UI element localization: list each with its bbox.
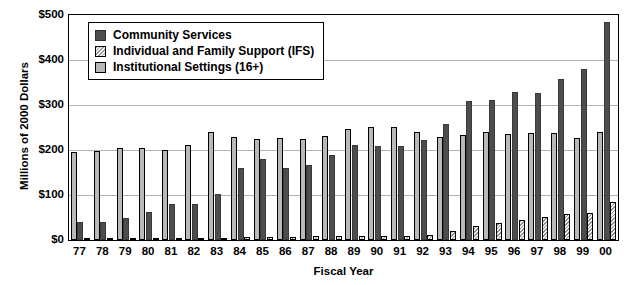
bar-ifs xyxy=(404,236,410,241)
legend-entry-ifs: Individual and Family Support (IFS) xyxy=(95,43,314,59)
bar-ifs xyxy=(290,237,296,240)
legend: Community Services Individual and Family… xyxy=(88,22,324,80)
bar-community-services xyxy=(535,93,541,240)
bar-institutional-settings xyxy=(300,139,306,240)
hatched-light-swatch-icon xyxy=(95,46,106,57)
bar-ifs xyxy=(221,238,227,240)
solid-dark-swatch-icon xyxy=(95,30,106,41)
x-tick-label: 80 xyxy=(142,245,155,257)
x-tick-label: 99 xyxy=(576,245,589,257)
legend-entry-institutional-settings: Institutional Settings (16+) xyxy=(95,59,314,75)
bar-community-services xyxy=(192,204,198,240)
x-tick-label: 88 xyxy=(325,245,338,257)
x-tick-label: 84 xyxy=(233,245,246,257)
bar-ifs xyxy=(107,238,113,240)
x-tick-label: 82 xyxy=(187,245,200,257)
bar-ifs xyxy=(450,231,456,240)
bar-ifs xyxy=(473,226,479,240)
bar-ifs xyxy=(153,238,159,240)
bar-community-services xyxy=(215,194,221,240)
bar-group xyxy=(483,15,502,240)
bar-institutional-settings xyxy=(414,132,420,240)
bar-institutional-settings xyxy=(117,148,123,240)
x-tick-label: 92 xyxy=(416,245,429,257)
bar-ifs xyxy=(176,238,182,240)
x-tick-label: 78 xyxy=(96,245,109,257)
bar-ifs xyxy=(587,213,593,240)
bar-community-services xyxy=(375,146,381,240)
bar-ifs xyxy=(84,238,90,240)
x-tick-label: 98 xyxy=(553,245,566,257)
bar-group xyxy=(505,15,524,240)
x-tick-label: 89 xyxy=(348,245,361,257)
bar-community-services xyxy=(604,22,610,240)
bar-institutional-settings xyxy=(528,133,534,240)
bar-ifs xyxy=(610,202,616,240)
bar-community-services xyxy=(512,92,518,241)
bar-group xyxy=(574,15,593,240)
bar-community-services xyxy=(238,168,244,240)
x-tick-label: 96 xyxy=(508,245,521,257)
bar-group xyxy=(322,15,341,240)
bar-group xyxy=(597,15,616,240)
bar-community-services xyxy=(421,140,427,240)
bar-group xyxy=(391,15,410,240)
bar-community-services xyxy=(352,145,358,240)
bar-institutional-settings xyxy=(322,136,328,240)
x-tick-label: 83 xyxy=(210,245,223,257)
bar-community-services xyxy=(466,101,472,240)
bar-group xyxy=(345,15,364,240)
bar-community-services xyxy=(77,222,83,240)
bar-institutional-settings xyxy=(368,127,374,240)
bar-community-services xyxy=(260,159,266,240)
x-tick-label: 97 xyxy=(531,245,544,257)
bar-community-services xyxy=(581,69,587,240)
bar-institutional-settings xyxy=(277,138,283,240)
bar-group xyxy=(551,15,570,240)
x-tick-label: 91 xyxy=(393,245,406,257)
x-tick-label: 90 xyxy=(370,245,383,257)
bar-group xyxy=(528,15,547,240)
x-tick-label: 81 xyxy=(165,245,178,257)
y-tick-label: $200 xyxy=(14,143,64,155)
bar-community-services xyxy=(283,168,289,240)
bar-ifs xyxy=(267,237,273,240)
x-tick-label: 79 xyxy=(119,245,132,257)
bar-group xyxy=(437,15,456,240)
bar-ifs xyxy=(359,236,365,240)
bar-institutional-settings xyxy=(391,127,397,240)
x-tick-label: 87 xyxy=(302,245,315,257)
bar-institutional-settings xyxy=(185,145,191,240)
bar-community-services xyxy=(398,146,404,240)
bar-community-services xyxy=(146,212,152,240)
bar-ifs xyxy=(564,214,570,240)
legend-label: Community Services xyxy=(113,28,232,42)
bar-ifs xyxy=(130,238,136,240)
bar-institutional-settings xyxy=(597,132,603,240)
bar-institutional-settings xyxy=(460,135,466,240)
bar-group xyxy=(414,15,433,240)
x-tick-label: 93 xyxy=(439,245,452,257)
bar-institutional-settings xyxy=(208,132,214,240)
bar-institutional-settings xyxy=(505,134,511,240)
bar-institutional-settings xyxy=(483,132,489,240)
bar-group xyxy=(368,15,387,240)
y-tick-label: $400 xyxy=(14,53,64,65)
x-tick-label: 86 xyxy=(279,245,292,257)
bar-community-services xyxy=(443,124,449,240)
x-tick-label: 00 xyxy=(599,245,612,257)
legend-entry-community-services: Community Services xyxy=(95,27,314,43)
bar-chart: Millions of 2000 Dollars $500$400$300$20… xyxy=(0,0,627,285)
bar-ifs xyxy=(313,236,319,240)
y-tick-label: $300 xyxy=(14,98,64,110)
bar-institutional-settings xyxy=(139,148,145,240)
y-tick-label: $500 xyxy=(14,8,64,20)
bar-institutional-settings xyxy=(71,152,77,240)
bar-community-services xyxy=(169,204,175,240)
bar-community-services xyxy=(558,79,564,240)
bar-institutional-settings xyxy=(437,137,443,240)
x-tick-label: 95 xyxy=(485,245,498,257)
x-tick-label: 94 xyxy=(462,245,475,257)
bar-institutional-settings xyxy=(254,139,260,240)
bar-ifs xyxy=(198,238,204,240)
